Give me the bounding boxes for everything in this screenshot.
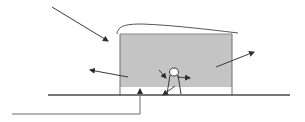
- shaded-interior: [120, 34, 232, 87]
- person-head: [170, 68, 179, 76]
- diagram-canvas: [0, 0, 305, 122]
- structure-box: [120, 34, 232, 95]
- incoming-radiation-arrow-icon: [52, 7, 108, 41]
- floor-strip: [120, 87, 232, 95]
- roof-curve: [117, 24, 238, 34]
- diagram-svg: [0, 0, 305, 122]
